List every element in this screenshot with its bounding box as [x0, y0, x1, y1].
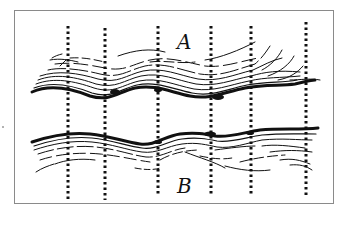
band-a [32, 42, 320, 100]
band-b [32, 128, 318, 172]
diagram-figure: A B [0, 0, 362, 228]
label-band-b: B [177, 176, 192, 196]
label-band-a: A [177, 32, 191, 52]
